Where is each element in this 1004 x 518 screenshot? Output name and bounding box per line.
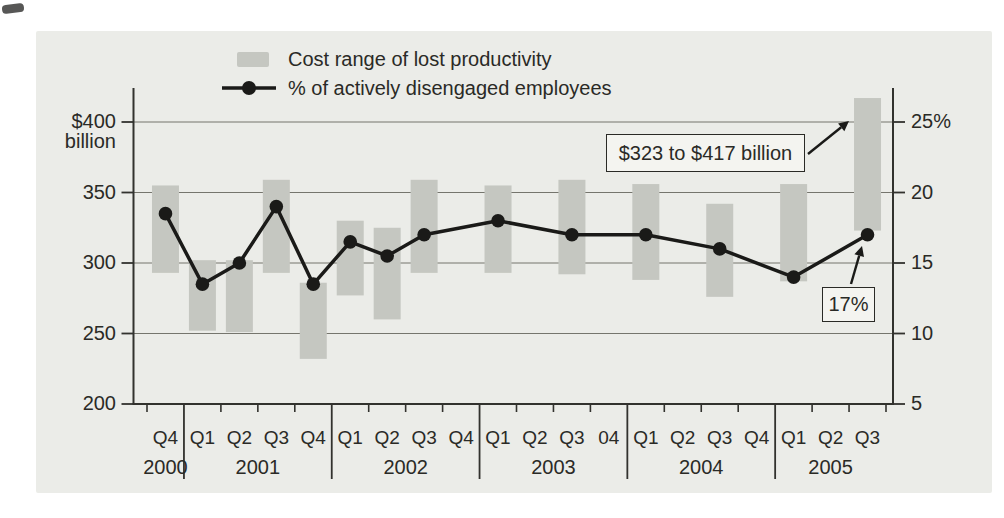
cost-range-bar-Q1-2002 bbox=[337, 221, 364, 296]
pct-point-Q1-2005 bbox=[787, 270, 801, 284]
cost-range-bar-Q2-2001 bbox=[226, 260, 253, 332]
pct-point-Q3-2004 bbox=[713, 242, 727, 256]
annotation-arrow-pct-shaft bbox=[851, 256, 859, 284]
cost-range-bar-Q4-2001 bbox=[300, 283, 327, 359]
annotation-arrow-cost-shaft bbox=[808, 127, 841, 154]
pct-point-Q1-2004 bbox=[639, 228, 653, 242]
pct-point-Q3-2002 bbox=[417, 228, 431, 242]
legend-label-pct-disengaged: % of actively disengaged employees bbox=[288, 78, 612, 98]
cost-range-bar-Q1-2005 bbox=[780, 184, 807, 281]
pct-point-Q4-2000 bbox=[159, 207, 173, 221]
pct-point-Q1-2001 bbox=[196, 277, 210, 291]
cost-range-bar-Q3-2003 bbox=[558, 180, 585, 274]
pct-point-Q4-2001 bbox=[306, 277, 320, 291]
cost-range-bar-Q2-2002 bbox=[374, 228, 401, 320]
cost-range-bar-Q3-2005 bbox=[854, 98, 881, 231]
cost-range-bar-Q1-2003 bbox=[485, 185, 512, 272]
annotation-arrow-pct-head bbox=[854, 246, 864, 257]
annotation-box-pct: 17% bbox=[822, 287, 875, 322]
pct-point-Q3-2005 bbox=[861, 228, 875, 242]
pct-point-Q2-2002 bbox=[380, 249, 394, 263]
legend-label-cost-range: Cost range of lost productivity bbox=[288, 49, 551, 69]
cost-range-bar-Q3-2002 bbox=[411, 180, 438, 273]
cost-range-swatch-icon bbox=[237, 52, 269, 67]
pct-point-Q3-2001 bbox=[270, 200, 284, 214]
pct-point-Q1-2003 bbox=[491, 214, 505, 228]
pct-point-Q2-2001 bbox=[233, 256, 247, 270]
chart-figure: $400350300250200billion25%20151052000200… bbox=[0, 0, 1004, 518]
pct-point-Q1-2002 bbox=[343, 235, 357, 249]
legend-dot-glyph bbox=[242, 81, 256, 95]
annotation-box-cost-range: $323 to $417 billion bbox=[606, 134, 805, 172]
annotation-text-cost-range: $323 to $417 billion bbox=[619, 142, 792, 165]
line-dot-swatch-icon bbox=[221, 79, 277, 97]
pct-point-Q3-2003 bbox=[565, 228, 579, 242]
cost-range-bar-Q1-2001 bbox=[189, 260, 216, 331]
annotation-text-pct: 17% bbox=[828, 293, 868, 316]
